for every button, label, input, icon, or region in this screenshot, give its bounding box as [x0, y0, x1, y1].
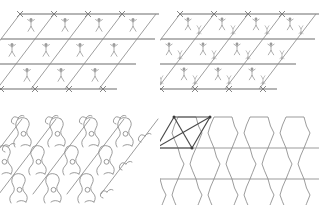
- panel-tessellated-tile-network: [160, 103, 319, 205]
- terminal-c-groups: [0, 115, 151, 198]
- p1-lattice-drawing: [0, 0, 159, 102]
- motif-group-row-2: [9, 43, 118, 56]
- panel-p2-stick-figure-lattice: [160, 0, 319, 102]
- lattice-lines-group: [160, 14, 319, 89]
- unit-cell-outline: [160, 117, 210, 148]
- p2-lattice-drawing: [160, 0, 319, 102]
- motif-pair-row-1: [185, 18, 303, 35]
- chain-lattice-lines: [0, 119, 158, 194]
- panel-p1-stick-figure-lattice: [0, 0, 159, 102]
- chain-units-row-3: [0, 174, 95, 204]
- motif-pair-row-3: [160, 68, 265, 85]
- panel-molecular-chain-network: [0, 103, 159, 205]
- figure-sheet: [0, 0, 319, 205]
- tessellation-drawing: [160, 103, 319, 205]
- motif-pair-row-2: [166, 43, 284, 60]
- motif-group-row-1: [28, 18, 137, 31]
- tile-row-2: [160, 148, 319, 179]
- tile-row-1: [172, 117, 310, 148]
- tile-row-3: [160, 179, 310, 205]
- chain-units-row-1: [14, 118, 134, 148]
- motif-group-row-3: [0, 68, 98, 81]
- molecular-chain-drawing: [0, 103, 159, 205]
